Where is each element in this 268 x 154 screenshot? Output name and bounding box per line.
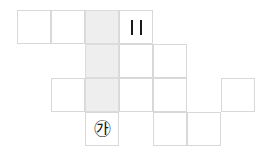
grid-cell-shaded bbox=[85, 78, 119, 112]
grid-cell bbox=[153, 78, 187, 112]
grid-cell bbox=[153, 112, 187, 146]
grid-cell bbox=[51, 78, 85, 112]
grid-cell bbox=[17, 10, 51, 44]
grid-cell-shaded bbox=[85, 44, 119, 78]
grid-cell bbox=[51, 10, 85, 44]
grid-cell bbox=[119, 44, 153, 78]
grid-cell-shaded bbox=[85, 10, 119, 44]
circled-ga-label: ㉮ bbox=[86, 113, 118, 145]
grid-figure: ㉮ bbox=[0, 0, 268, 154]
grid-cell bbox=[153, 44, 187, 78]
grid-cell bbox=[119, 10, 153, 44]
grid-cell-marked: ㉮ bbox=[85, 112, 119, 146]
grid-cell bbox=[221, 78, 255, 112]
grid-cell bbox=[187, 112, 221, 146]
grid-cell bbox=[119, 78, 153, 112]
